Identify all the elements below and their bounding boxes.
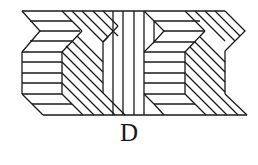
option-label: D bbox=[0, 118, 258, 148]
